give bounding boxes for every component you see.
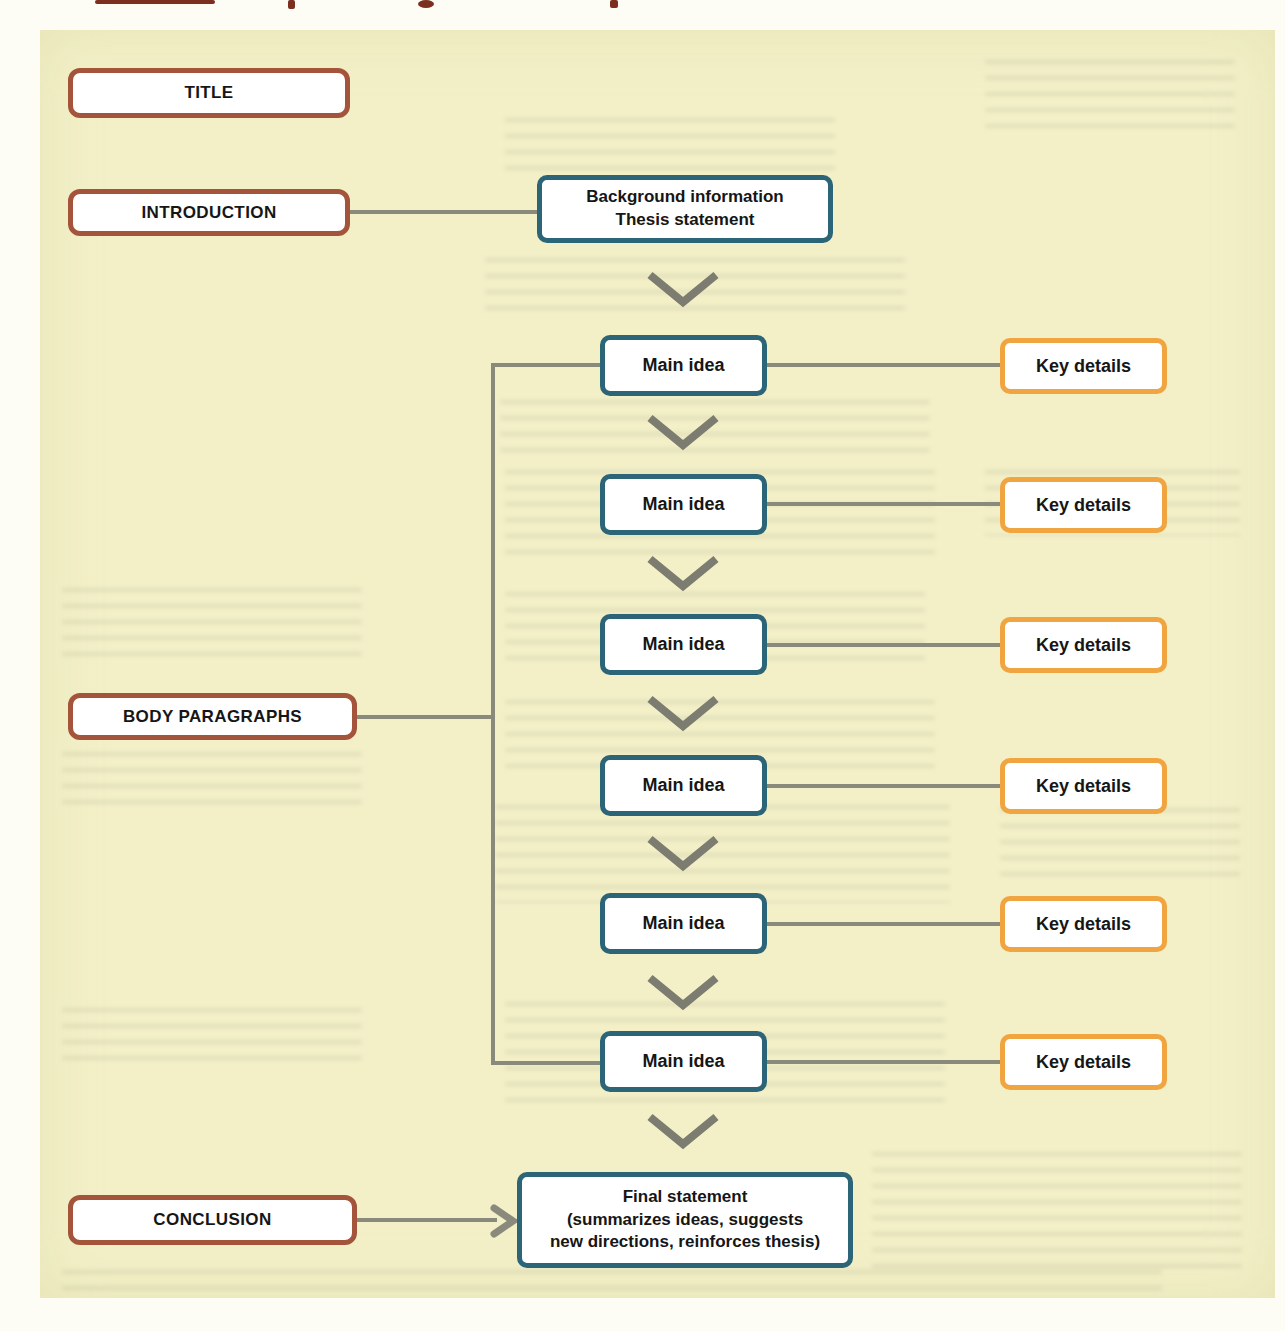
- main-idea-box-1: Main idea: [600, 335, 767, 396]
- row2-connector-line: [767, 502, 1000, 506]
- key-details-label: Key details: [1036, 635, 1131, 656]
- intro-connector-line: [350, 210, 537, 214]
- conclusion-connector-line: [357, 1218, 497, 1222]
- body-paragraphs-label: BODY PARAGRAPHS: [123, 707, 302, 727]
- main-idea-box-4: Main idea: [600, 755, 767, 816]
- body-bracket-top-line: [491, 363, 600, 367]
- right-arrowhead-icon: [489, 1204, 519, 1238]
- down-chevron-icon: [645, 1112, 721, 1150]
- down-chevron-icon: [645, 973, 721, 1011]
- key-details-label: Key details: [1036, 914, 1131, 935]
- down-chevron-icon: [645, 270, 721, 308]
- final-statement-line2: (summarizes ideas, suggests: [567, 1209, 803, 1232]
- main-idea-box-3: Main idea: [600, 614, 767, 675]
- title-label: TITLE: [184, 83, 233, 103]
- intro-detail-line1: Background information: [586, 186, 783, 209]
- row6-connector-line: [767, 1060, 1000, 1064]
- main-idea-label: Main idea: [642, 1051, 724, 1072]
- row3-connector-line: [767, 643, 1000, 647]
- down-chevron-icon: [645, 413, 721, 451]
- down-chevron-icon: [645, 834, 721, 872]
- main-idea-box-5: Main idea: [600, 893, 767, 954]
- body-paragraphs-box: BODY PARAGRAPHS: [68, 693, 357, 740]
- key-details-label: Key details: [1036, 356, 1131, 377]
- body-bracket-bottom-line: [491, 1061, 600, 1065]
- intro-detail-box: Background information Thesis statement: [537, 175, 833, 243]
- scanned-page: TITLE INTRODUCTION BODY PARAGRAPHS CONCL…: [0, 0, 1285, 1331]
- down-chevron-icon: [645, 554, 721, 592]
- main-idea-label: Main idea: [642, 775, 724, 796]
- row4-connector-line: [767, 784, 1000, 788]
- key-details-box-5: Key details: [1000, 896, 1167, 952]
- main-idea-label: Main idea: [642, 494, 724, 515]
- key-details-label: Key details: [1036, 1052, 1131, 1073]
- conclusion-label: CONCLUSION: [153, 1210, 271, 1230]
- key-details-box-1: Key details: [1000, 338, 1167, 394]
- key-details-box-4: Key details: [1000, 758, 1167, 814]
- body-bracket-vertical-line: [491, 363, 495, 1065]
- key-details-box-2: Key details: [1000, 477, 1167, 533]
- introduction-label: INTRODUCTION: [141, 203, 276, 223]
- main-idea-label: Main idea: [642, 634, 724, 655]
- final-statement-line3: new directions, reinforces thesis): [550, 1231, 820, 1254]
- key-details-box-6: Key details: [1000, 1034, 1167, 1090]
- down-chevron-icon: [645, 694, 721, 732]
- conclusion-box: CONCLUSION: [68, 1195, 357, 1245]
- key-details-box-3: Key details: [1000, 617, 1167, 673]
- key-details-label: Key details: [1036, 776, 1131, 797]
- main-idea-label: Main idea: [642, 355, 724, 376]
- main-idea-label: Main idea: [642, 913, 724, 934]
- main-idea-box-2: Main idea: [600, 474, 767, 535]
- introduction-box: INTRODUCTION: [68, 189, 350, 236]
- final-statement-box: Final statement (summarizes ideas, sugge…: [517, 1172, 853, 1268]
- row1-connector-line: [767, 363, 1000, 367]
- title-box: TITLE: [68, 68, 350, 118]
- main-idea-box-6: Main idea: [600, 1031, 767, 1092]
- key-details-label: Key details: [1036, 495, 1131, 516]
- row5-connector-line: [767, 922, 1000, 926]
- final-statement-line1: Final statement: [623, 1186, 748, 1209]
- intro-detail-line2: Thesis statement: [616, 209, 755, 232]
- body-connector-line: [357, 715, 495, 719]
